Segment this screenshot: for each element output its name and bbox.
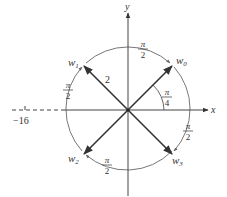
svg-text:4: 4 [165,98,170,108]
y-axis: y [124,1,130,196]
svg-text:2: 2 [141,50,146,60]
svg-text:π: π [66,80,71,90]
svg-text:π: π [186,121,191,131]
vector-w1 [84,66,128,110]
root-label-w1: w1 [68,56,79,70]
svg-text:2: 2 [66,91,71,101]
svg-text:π: π [165,87,170,97]
root-label-w0: w0 [176,54,187,68]
y-axis-label: y [124,1,130,12]
vector-w3 [128,110,172,154]
vector-w2 [84,110,128,154]
x-axis-label: x [210,104,216,115]
radius-label: 2 [105,74,110,85]
angle-arc [153,85,164,110]
neg-tick-label: −16 [13,115,29,126]
root-label-w3: w3 [172,154,183,168]
svg-text:2: 2 [186,132,191,142]
root-label-w2: w2 [68,152,79,166]
roots-diagram: x −16 y w0 w1 w2 w3 2 π 4 π 2 π 2 [0,0,227,197]
svg-text:π: π [105,155,110,165]
svg-text:2: 2 [105,166,110,176]
arc-label-right: π 2 [183,121,193,142]
origin-dot [126,108,129,111]
svg-text:π: π [141,39,146,49]
